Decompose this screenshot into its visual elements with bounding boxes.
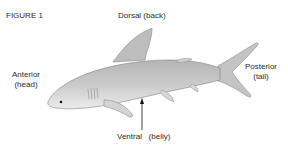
shark-eye <box>60 101 63 104</box>
dorsal-fin <box>113 28 152 62</box>
caudal-fin <box>216 43 258 97</box>
shark-illustration <box>0 0 288 150</box>
shark-body <box>48 60 220 109</box>
ventral-arrow-head <box>140 98 144 104</box>
